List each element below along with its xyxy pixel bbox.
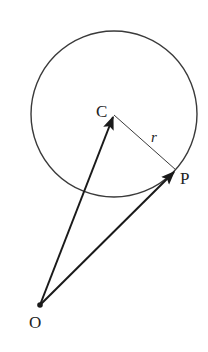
point-label-o: O <box>29 313 41 332</box>
vector-op-arrow <box>40 172 174 305</box>
origin-point <box>37 302 43 308</box>
point-label-p: P <box>180 169 189 188</box>
point-label-c: C <box>96 102 107 121</box>
radius-segment-cp <box>114 115 176 170</box>
vector-oc-arrow <box>40 117 113 305</box>
circle <box>31 31 197 197</box>
radius-label: r <box>151 129 157 145</box>
circle-vector-diagram: C r P O <box>0 0 208 352</box>
